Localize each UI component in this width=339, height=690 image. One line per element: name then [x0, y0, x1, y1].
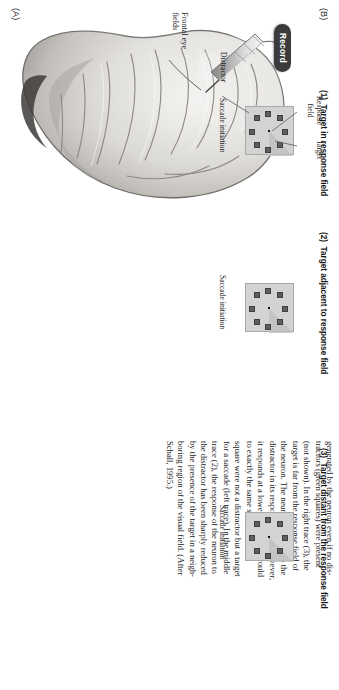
- caption-line: to exactly the same stimulus if the: [243, 441, 254, 687]
- saccade-initiation-label-3: Saccade initiation: [218, 505, 227, 559]
- caption-line: by the presence of the target in a neigh…: [186, 441, 197, 687]
- frontal-eye-fields-label: Frontal eye fields: [170, 12, 189, 49]
- subpanel-2-title: (2) Target adjacent to response field: [319, 232, 329, 374]
- caption-line: boring region of the visual field. (Afte…: [175, 441, 186, 687]
- caption-line: the distractor has been sharply reduced: [198, 441, 209, 687]
- caption-line: target is far from the response field of: [289, 441, 300, 687]
- stimulus-square: [277, 319, 283, 325]
- annotation-target: Target: [314, 140, 323, 159]
- caption-line: for a saccade (left trace). In the middl…: [220, 441, 231, 687]
- panel-letter-b: (B): [319, 8, 329, 20]
- stimulus-square: [266, 324, 272, 330]
- stimulus-square: [277, 548, 283, 554]
- caption-line: the neuron. The neuron responds to the: [278, 441, 289, 687]
- caption-line: square were not a distractor but a targe…: [232, 441, 243, 687]
- stimulus-square: [249, 306, 255, 312]
- stimulus-square: [282, 535, 288, 541]
- annotation-distractor: Distractor: [218, 52, 227, 82]
- stimulus-square: [277, 521, 283, 527]
- stimulus-array-3: [245, 512, 294, 561]
- caption-line: Schall, 1995.): [163, 441, 174, 687]
- stimulus-square: [254, 319, 260, 325]
- stimulus-square: [277, 292, 283, 298]
- stimulus-square: [254, 521, 260, 527]
- caption-line: trace (2), the response of the neuron to: [209, 441, 220, 687]
- stimulus-square: [266, 517, 272, 523]
- subpanel-3-title: (3) Target distant from the response fie…: [319, 448, 329, 609]
- stimulus-square: [254, 292, 260, 298]
- caption-line: (not shown). In the right trace (3), the: [301, 441, 312, 687]
- fixation-point: [268, 536, 270, 538]
- caption-line: distractor in its response field. Howeve…: [266, 441, 277, 687]
- caption-line: it responds at a lower rate than it woul…: [255, 441, 266, 687]
- stimulus-square: [254, 548, 260, 554]
- stimulus-square: [249, 535, 255, 541]
- stimulus-array-2: [245, 283, 294, 332]
- saccade-initiation-label-2: Saccade initiation: [218, 275, 227, 329]
- stimulus-square: [266, 553, 272, 559]
- figure-caption: generated by the neuron even if no dis- …: [163, 441, 335, 687]
- stimulus-square: [266, 288, 272, 294]
- figure-stage: generated by the neuron even if no dis- …: [0, 0, 339, 690]
- saccade-initiation-label-1: Saccade initiation: [218, 98, 227, 152]
- figure-root: generated by the neuron even if no dis- …: [0, 0, 339, 690]
- annotation-response-field: Response field: [306, 96, 323, 125]
- stimulus-square: [282, 306, 288, 312]
- fixation-point: [268, 307, 270, 309]
